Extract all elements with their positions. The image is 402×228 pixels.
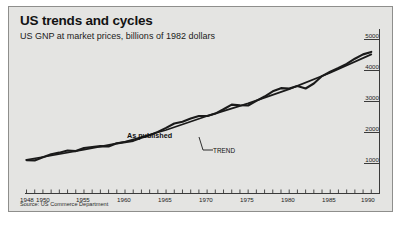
y-tick-label-5000: 5000 xyxy=(346,32,379,39)
chart-panel: US trends and cycles US GNP at market pr… xyxy=(8,6,393,212)
x-tick-label-1960: 1960 xyxy=(117,196,131,203)
chart-panel-inner: US trends and cycles US GNP at market pr… xyxy=(9,7,392,211)
annotation-as-published: As published xyxy=(127,131,172,140)
x-tick-label-1950: 1950 xyxy=(36,196,50,203)
y-tick-label-3000: 3000 xyxy=(346,94,379,101)
annotation-trend: TREND xyxy=(213,147,235,154)
x-tick-label-1970: 1970 xyxy=(199,196,213,203)
chart-figure: US trends and cycles US GNP at market pr… xyxy=(0,0,402,228)
x-tick-label-1980: 1980 xyxy=(281,196,295,203)
x-minor-tick-marks xyxy=(27,190,380,194)
y-tick-marks xyxy=(364,40,379,164)
chart-plot-area xyxy=(9,7,394,213)
x-tick-label-1990: 1990 xyxy=(361,196,375,203)
series-line-published xyxy=(27,52,372,160)
x-tick-label-1948: 1948 xyxy=(20,196,34,203)
x-tick-label-1975: 1975 xyxy=(240,196,254,203)
y-tick-label-2000: 2000 xyxy=(346,125,379,132)
trend-leader-line xyxy=(199,137,213,150)
x-tick-label-1985: 1985 xyxy=(322,196,336,203)
x-tick-label-1955: 1955 xyxy=(76,196,90,203)
y-tick-label-1000: 1000 xyxy=(346,156,379,163)
x-tick-label-1965: 1965 xyxy=(158,196,172,203)
series-line-trend xyxy=(27,54,372,159)
y-tick-label-4000: 4000 xyxy=(346,63,379,70)
